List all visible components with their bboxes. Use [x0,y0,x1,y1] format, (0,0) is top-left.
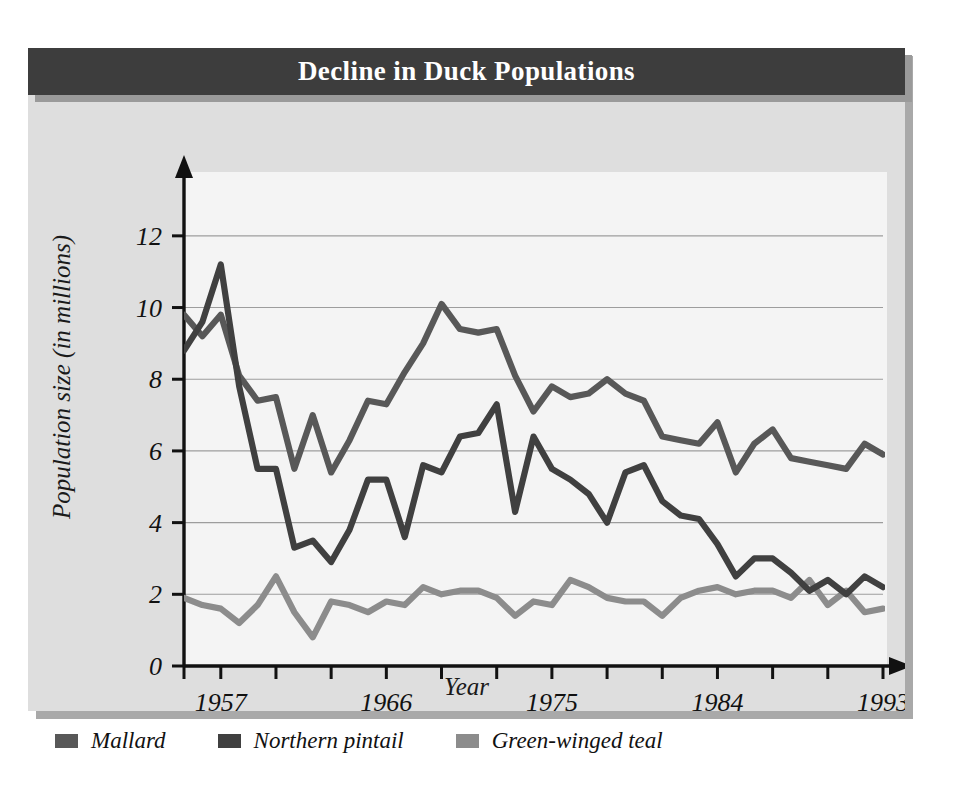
plot-area: 02468101219571966197519841993 Population… [28,95,905,711]
svg-text:8: 8 [149,365,162,394]
svg-text:4: 4 [149,509,162,538]
legend-label: Green-winged teal [492,728,663,754]
svg-text:2: 2 [149,580,162,609]
chart-page: Decline in Duck Populations 024681012195… [0,0,961,794]
svg-text:12: 12 [136,222,162,251]
legend-item-mallard: Mallard [55,728,166,754]
x-axis-title: Year [28,673,905,701]
legend-swatch-icon [55,734,78,748]
chart-legend: Mallard Northern pintail Green-winged te… [55,728,715,754]
y-axis-title: Population size (in millions) [48,167,76,587]
page-title: Decline in Duck Populations [298,56,635,87]
chart-card: Decline in Duck Populations 024681012195… [28,48,905,711]
legend-label: Mallard [91,728,166,754]
line-chart-svg: 02468101219571966197519841993 [28,95,905,711]
title-banner: Decline in Duck Populations [28,48,905,95]
legend-item-northern-pintail: Northern pintail [218,728,404,754]
svg-text:10: 10 [136,294,162,323]
legend-swatch-icon [218,734,241,748]
legend-swatch-icon [456,734,479,748]
legend-item-green-winged-teal: Green-winged teal [456,728,663,754]
svg-text:6: 6 [149,437,162,466]
legend-label: Northern pintail [254,728,404,754]
